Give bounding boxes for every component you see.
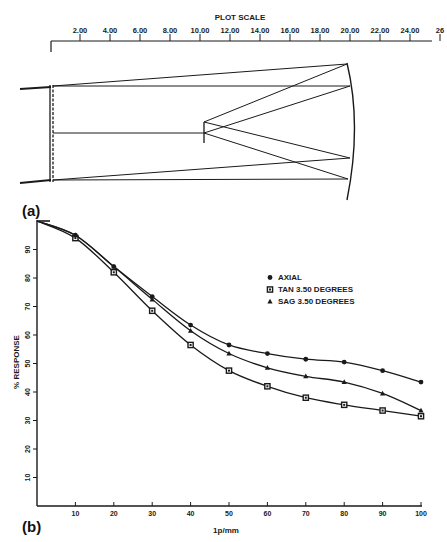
x-tick-label: 10 <box>72 510 80 517</box>
x-tick-label: 90 <box>379 510 387 517</box>
scale-tick-label: 2.00 <box>73 26 88 35</box>
scale-ticks: 2.004.006.008.0010.0012.0014.0016.0018.0… <box>73 26 444 41</box>
y-tick-label: 30 <box>24 417 31 425</box>
x-tick-label: 60 <box>264 510 272 517</box>
x-ticks: 102030405060708090100 <box>72 502 427 517</box>
legend-item: AXIAL <box>268 273 303 282</box>
y-tick-label: 40 <box>24 388 31 396</box>
legend-item: TAN 3.50 DEGREES <box>267 285 353 294</box>
figure: PLOT SCALE 2.004.006.008.0010.0012.0014.… <box>0 0 447 542</box>
scale-tick-label: 20.00 <box>341 26 360 35</box>
y-ticks: 102030405060708090 <box>24 246 37 482</box>
y-tick-label: 80 <box>24 274 31 282</box>
series-lines <box>37 221 424 419</box>
x-tick-label: 80 <box>340 510 348 517</box>
series-circle <box>37 221 423 384</box>
scale-tick-label: 6.00 <box>133 26 148 35</box>
corrector-plate <box>50 85 53 182</box>
mtf-chart: 102030405060708090 102030405060708090100… <box>12 220 427 535</box>
y-tick-label: 90 <box>24 246 31 254</box>
y-tick-label: 50 <box>24 360 31 368</box>
x-tick-label: 50 <box>225 510 233 517</box>
x-axis-label: 1p/mm <box>213 526 239 535</box>
legend-label: TAN 3.50 DEGREES <box>278 285 354 294</box>
x-tick-label: 40 <box>187 510 195 517</box>
y-tick-label: 60 <box>24 331 31 339</box>
legend-label: AXIAL <box>278 273 302 282</box>
y-tick-label: 10 <box>24 474 31 482</box>
scale-tick-label: 12.00 <box>221 26 240 35</box>
scale-tick-label: 16.00 <box>281 26 300 35</box>
x-tick-label: 30 <box>148 510 156 517</box>
plot-scale-title: PLOT SCALE <box>215 13 266 22</box>
scale-tick-label: 26 <box>436 26 444 35</box>
legend-item: SAG 3.50 DEGREES <box>267 297 355 306</box>
scale-tick-label: 10.00 <box>191 26 210 35</box>
legend-label: SAG 3.50 DEGREES <box>278 297 355 306</box>
y-tick-label: 70 <box>24 303 31 311</box>
plot-scale-bar: PLOT SCALE 2.004.006.008.0010.0012.0014.… <box>51 13 444 52</box>
scale-tick-label: 8.00 <box>163 26 178 35</box>
legend: AXIALTAN 3.50 DEGREESSAG 3.50 DEGREES <box>267 273 355 306</box>
scale-tick-label: 18.00 <box>311 26 330 35</box>
scale-tick-label: 24.00 <box>401 26 420 35</box>
x-tick-label: 20 <box>110 510 118 517</box>
y-axis-label: % RESPONSE <box>12 334 21 388</box>
x-tick-label: 70 <box>302 510 310 517</box>
scale-tick-label: 14.00 <box>251 26 270 35</box>
y-tick-label: 20 <box>24 445 31 453</box>
optical-diagram <box>20 63 355 200</box>
x-tick-label: 100 <box>415 510 427 517</box>
scale-tick-label: 4.00 <box>103 26 118 35</box>
panel-b-label: (b) <box>22 518 41 535</box>
scale-tick-label: 22.00 <box>371 26 390 35</box>
panel-a-label: (a) <box>22 202 40 219</box>
series-triangle <box>37 221 424 413</box>
primary-mirror <box>347 63 355 200</box>
